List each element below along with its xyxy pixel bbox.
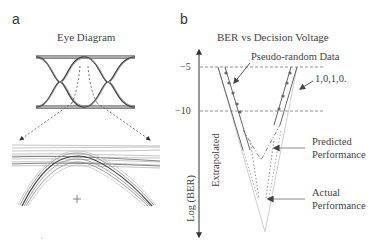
eye-diagram-title: Eye Diagram xyxy=(57,32,115,43)
tick-minus-5: −5 xyxy=(180,62,191,72)
center-marker-icon xyxy=(73,195,81,203)
pattern-arrow xyxy=(300,81,313,89)
predicted-label-line1: Predicted xyxy=(312,137,352,148)
pseudo-random-label: Pseudo-random Data xyxy=(251,52,339,63)
magnified-eye-crossing xyxy=(12,145,160,239)
figure: a Eye Diagram b BER vs Decision Voltage … xyxy=(0,0,377,249)
extrapolated-label: Extrapolated xyxy=(211,133,222,187)
eye-diagram xyxy=(20,56,150,141)
y-axis-label: Log (BER) xyxy=(186,175,197,222)
actual-label-line2: Performance xyxy=(312,201,366,212)
tick-minus-10: −10 xyxy=(175,106,191,116)
ber-plot-title: BER vs Decision Voltage xyxy=(217,32,329,43)
actual-label-line1: Actual xyxy=(312,188,340,199)
panel-a-letter: a xyxy=(12,12,20,26)
predicted-label-line2: Performance xyxy=(312,150,366,161)
pseudo-random-arrow xyxy=(234,63,250,83)
pattern-label: 1,0,1,0. xyxy=(315,74,347,85)
panel-b-letter: b xyxy=(180,12,188,26)
